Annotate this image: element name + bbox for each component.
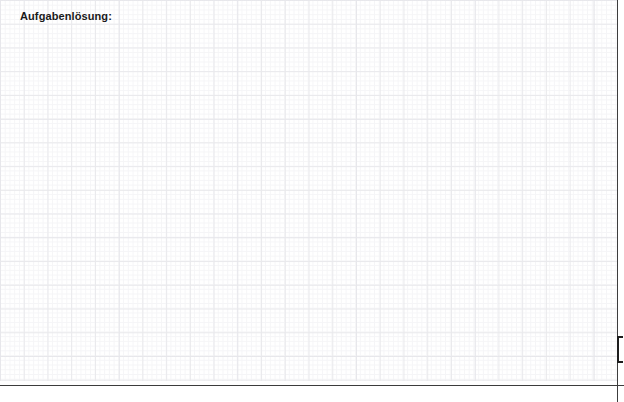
square-bracket-open-icon: [617, 336, 624, 363]
page-title: Aufgabenlösung:: [20, 10, 112, 23]
bracket-tick-top: [617, 336, 623, 338]
bracket-tick-bottom: [617, 361, 623, 363]
bracket-stem: [617, 336, 619, 363]
worksheet-page: Aufgabenlösung:: [0, 0, 624, 402]
answer-writing-area[interactable]: [20, 28, 600, 373]
page-bottom-rule: [0, 385, 624, 386]
